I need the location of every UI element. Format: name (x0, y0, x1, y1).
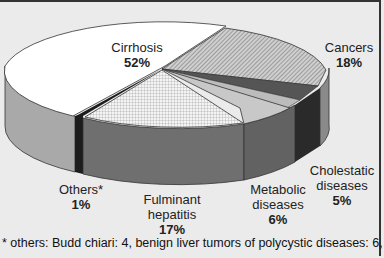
label-others-pct: 1% (46, 197, 116, 212)
label-others-name: Others* (59, 182, 103, 197)
footnote: * others: Budd chiari: 4, benign liver t… (2, 236, 383, 250)
slice-side-others (75, 114, 83, 174)
label-metabolic-pct: 6% (238, 212, 318, 227)
label-metabolic: Metabolic diseases 6% (238, 182, 318, 227)
label-others: Others* 1% (46, 182, 116, 212)
label-cirrhosis: Cirrhosis 52% (92, 40, 182, 70)
label-fulminant-name1: Fulminant (132, 192, 212, 207)
label-cirrhosis-pct: 52% (92, 55, 182, 70)
label-cancers-name: Cancers (325, 40, 373, 55)
label-metabolic-name2: diseases (238, 197, 318, 212)
label-fulminant: Fulminant hepatitis 17% (132, 192, 212, 237)
label-cancers-pct: 18% (316, 55, 382, 70)
slice-side-fulminant (83, 118, 244, 185)
label-fulminant-name2: hepatitis (132, 207, 212, 222)
label-cancers: Cancers 18% (316, 40, 382, 70)
label-metabolic-name1: Metabolic (238, 182, 318, 197)
label-fulminant-pct: 17% (132, 222, 212, 237)
label-cirrhosis-name: Cirrhosis (111, 40, 162, 55)
label-cholestatic-name1: Cholestatic (300, 163, 384, 178)
